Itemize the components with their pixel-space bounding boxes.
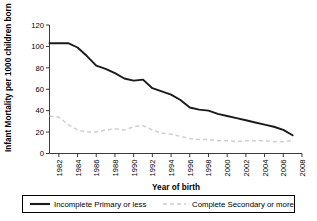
x-tick-label: 1988: [111, 160, 120, 177]
x-tick-label: 2006: [279, 160, 288, 177]
x-tick-label: 2000: [223, 160, 232, 177]
x-tick-label: 2004: [261, 160, 270, 177]
x-tick-label: 1986: [92, 160, 101, 177]
y-tick-label: 60: [36, 85, 44, 94]
y-tick-label: 20: [36, 128, 44, 137]
y-tick-label: 120: [31, 21, 44, 30]
x-tick-label: 1984: [74, 160, 83, 177]
x-tick-label: 2008: [298, 160, 307, 177]
x-tick-label: 2002: [242, 160, 251, 177]
legend-label-complete-secondary: Complete Secondary or more: [192, 200, 294, 209]
y-axis-title: Infant Mortality per 1000 children born: [4, 3, 13, 152]
x-tick-label: 1996: [186, 160, 195, 177]
x-tick-label: 1994: [167, 160, 176, 177]
x-tick-label: 1998: [204, 160, 213, 177]
x-tick-label: 1992: [148, 160, 157, 177]
y-tick-label: 40: [36, 106, 44, 115]
x-tick-label: 1990: [130, 160, 139, 177]
infant-mortality-chart: Infant Mortality per 1000 children born …: [0, 0, 317, 221]
y-tick-label: 0: [40, 149, 44, 158]
y-tick-label: 100: [31, 42, 44, 51]
x-axis-title: Year of birth: [152, 183, 200, 192]
y-tick-label: 80: [36, 64, 44, 73]
legend-label-incomplete-primary: Incomplete Primary or less: [54, 200, 146, 209]
chart-canvas: Infant Mortality per 1000 children born …: [0, 0, 317, 221]
x-tick-label: 1982: [55, 160, 64, 177]
